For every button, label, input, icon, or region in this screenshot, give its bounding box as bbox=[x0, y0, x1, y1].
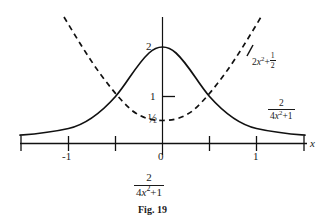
x-label-1: 1 bbox=[253, 151, 259, 162]
parabola-half-numerator: 1 bbox=[270, 52, 276, 61]
curve-fraction: 2 4x2+1 bbox=[268, 98, 295, 122]
y-label-1: 1 bbox=[150, 91, 156, 102]
bottom-denominator-tail: +1 bbox=[150, 186, 162, 198]
curve-equation-label: 2 4x2+1 bbox=[268, 98, 295, 122]
x-label-neg-1: -1 bbox=[62, 151, 71, 162]
figure-container: 2 1 ½ -1 0 1 x 2x2+ 1 2 2 4x2+1 2 4x2+1 … bbox=[0, 0, 325, 221]
parabola-equation-label: 2x2+ 1 2 bbox=[252, 52, 276, 70]
figure-caption: Fig. 19 bbox=[138, 205, 167, 215]
y-label-half: ½ bbox=[148, 113, 157, 125]
curve-denominator-tail: +1 bbox=[282, 111, 292, 121]
parabola-half-fraction: 1 2 bbox=[270, 52, 276, 70]
x-axis-name: x bbox=[310, 138, 315, 149]
x-label-0: 0 bbox=[158, 151, 164, 162]
bottom-formula: 2 4x2+1 bbox=[134, 172, 164, 199]
parabola-half-denominator: 2 bbox=[270, 61, 276, 69]
bottom-fraction: 2 4x2+1 bbox=[134, 172, 164, 199]
curve-denominator: 4x2+1 bbox=[268, 110, 295, 121]
y-label-2: 2 bbox=[146, 41, 152, 52]
bottom-denominator: 4x2+1 bbox=[134, 186, 164, 199]
